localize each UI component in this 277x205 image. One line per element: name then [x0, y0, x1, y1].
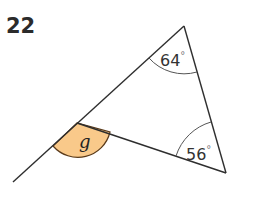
triangle-figure: 64° 56° g: [0, 0, 277, 205]
angle-label-bottom-right: 56°: [186, 144, 211, 164]
long-side-line: [13, 26, 184, 182]
angle-label-top: 64°: [160, 50, 185, 70]
angle-label-g: g: [79, 131, 91, 152]
